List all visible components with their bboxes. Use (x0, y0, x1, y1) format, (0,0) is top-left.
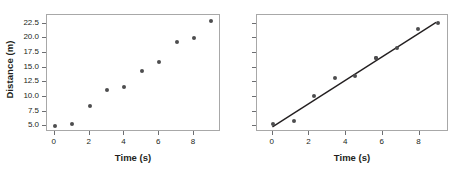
x-tick-mark (89, 131, 90, 135)
y-tick-mark (252, 37, 256, 38)
x-tick-label: 2 (293, 138, 323, 146)
data-point (157, 60, 161, 64)
y-tick-label: 10.0 (6, 92, 39, 100)
data-point (292, 119, 296, 123)
x-tick-label: 6 (367, 138, 397, 146)
x-tick-label: 6 (143, 138, 173, 146)
data-layer-left (47, 15, 219, 130)
y-tick-mark (252, 52, 256, 53)
x-tick-label: 8 (404, 138, 434, 146)
x-tick-label: 0 (39, 138, 69, 146)
plot-area-right (256, 14, 448, 131)
x-tick-mark (308, 131, 309, 135)
y-tick-label: 22.5 (6, 19, 39, 27)
y-tick-mark (42, 96, 46, 97)
x-tick-label: 4 (330, 138, 360, 146)
data-point (374, 56, 378, 60)
y-tick-mark (252, 23, 256, 24)
x-tick-mark (54, 131, 55, 135)
data-point (105, 88, 109, 92)
data-point (175, 40, 179, 44)
data-point (312, 94, 316, 98)
chart-panel-right: Time (s) 02468 (228, 0, 456, 175)
y-tick-label: 7.5 (6, 107, 39, 115)
y-tick-mark (42, 23, 46, 24)
x-tick-mark (158, 131, 159, 135)
data-point (70, 122, 74, 126)
data-point (192, 36, 196, 40)
y-tick-label: 15.0 (6, 63, 39, 71)
x-tick-mark (193, 131, 194, 135)
y-tick-label: 20.0 (6, 33, 39, 41)
y-tick-mark (42, 52, 46, 53)
data-point (122, 85, 126, 89)
x-tick-label: 8 (178, 138, 208, 146)
y-tick-mark (252, 125, 256, 126)
data-point (140, 69, 144, 73)
x-tick-mark (382, 131, 383, 135)
x-tick-mark (123, 131, 124, 135)
y-tick-mark (42, 125, 46, 126)
figure-container: Distance (m) Time (s) 5.07.510.012.515.0… (0, 0, 457, 175)
x-tick-label: 0 (257, 138, 287, 146)
y-tick-mark (252, 67, 256, 68)
x-axis-title-right: Time (s) (256, 152, 448, 163)
data-point (416, 27, 420, 31)
plot-area-left (46, 14, 220, 131)
data-point (209, 19, 213, 23)
chart-panel-left: Distance (m) Time (s) 5.07.510.012.515.0… (0, 0, 228, 175)
y-tick-mark (42, 67, 46, 68)
x-tick-mark (272, 131, 273, 135)
data-point (88, 104, 92, 108)
data-layer-right (257, 15, 447, 130)
data-point (395, 46, 399, 50)
y-tick-mark (42, 111, 46, 112)
data-point (271, 122, 275, 126)
x-tick-mark (419, 131, 420, 135)
data-point (353, 74, 357, 78)
y-tick-mark (252, 111, 256, 112)
data-point (333, 76, 337, 80)
x-axis-title-left: Time (s) (46, 152, 220, 163)
y-tick-label: 17.5 (6, 48, 39, 56)
y-tick-label: 12.5 (6, 77, 39, 85)
y-tick-mark (42, 81, 46, 82)
x-tick-label: 4 (108, 138, 138, 146)
x-tick-label: 2 (74, 138, 104, 146)
x-tick-mark (345, 131, 346, 135)
y-tick-label: 5.0 (6, 121, 39, 129)
y-tick-mark (252, 96, 256, 97)
y-tick-mark (42, 37, 46, 38)
y-tick-mark (252, 81, 256, 82)
data-point (436, 21, 440, 25)
data-point (53, 124, 57, 128)
